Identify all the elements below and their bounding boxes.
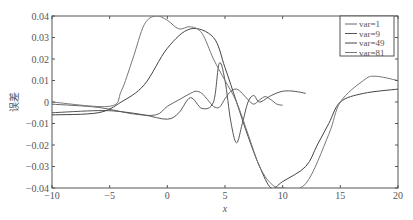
legend: var=1var=9var=49var=81 [340, 16, 394, 58]
y-tick-label: 0 [44, 97, 49, 108]
line-chart: −10−5051015200.040.030.020.010−0.01−0.02… [0, 0, 413, 220]
legend-label: var=1 [359, 19, 380, 29]
y-tick-label: 0.01 [32, 75, 50, 86]
y-tick-label: −0.04 [26, 183, 49, 194]
legend-label: var=49 [359, 38, 385, 48]
y-tick-label: 0.02 [32, 54, 50, 65]
y-tick-label: 0.04 [32, 11, 50, 22]
y-tick-label: −0.02 [26, 140, 49, 151]
x-tick-label: 20 [393, 190, 403, 201]
x-tick-label: 15 [335, 190, 345, 201]
y-tick-label: 0.03 [32, 32, 50, 43]
legend-label: var=81 [359, 48, 385, 58]
y-tick-label: −0.03 [26, 161, 49, 172]
x-tick-label: 5 [223, 190, 228, 201]
x-tick-label: 10 [278, 190, 288, 201]
x-tick-label: 0 [165, 190, 170, 201]
x-axis-label: x [222, 203, 228, 214]
legend-label: var=9 [359, 29, 381, 39]
y-axis-label: 误差 [8, 92, 20, 112]
x-tick-label: −5 [104, 190, 115, 201]
y-tick-label: −0.01 [26, 118, 49, 129]
